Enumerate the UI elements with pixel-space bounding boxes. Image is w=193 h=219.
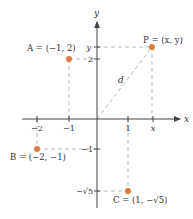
y-tick-label: −1 [81, 145, 93, 154]
x-tick-label: x [151, 124, 156, 133]
y-axis-label: y [93, 8, 100, 18]
point-p-label: P = (x, y) [143, 35, 183, 45]
point-a [66, 56, 72, 62]
x-tick-label: −1 [63, 124, 75, 133]
distance-line-d [97, 47, 152, 119]
distance-label: d [118, 75, 124, 85]
point-c [125, 188, 131, 194]
y-tick-label: −√5 [76, 187, 93, 196]
coordinate-plane-svg: x y −2 −1 1 x y 2 −1 −√5 d A = (−1, 2) P… [0, 0, 193, 219]
point-b-label: B = (−2, −1) [10, 152, 66, 162]
x-axis-label: x [184, 114, 189, 124]
coordinate-plane-figure: x y −2 −1 1 x y 2 −1 −√5 d A = (−1, 2) P… [0, 0, 193, 219]
y-tick-label: 2 [88, 55, 93, 64]
x-tick-label: −2 [31, 124, 43, 133]
point-a-label: A = (−1, 2) [26, 43, 76, 53]
y-tick-label: y [85, 43, 91, 52]
point-c-label: C = (1, −√5) [113, 195, 167, 205]
x-tick-label: 1 [125, 124, 130, 133]
